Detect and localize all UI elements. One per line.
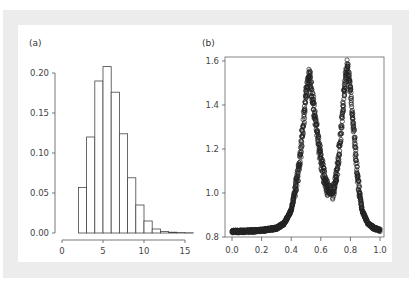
x-tick-label: 10 (139, 246, 150, 256)
x-tick-label: 1.0 (373, 245, 387, 255)
x-tick-label: 5 (100, 246, 105, 256)
panel-label-b: (b) (202, 38, 215, 48)
x-tick-label: 0.6 (314, 245, 328, 255)
y-tick-label: 0.10 (30, 148, 49, 158)
y-tick-label: 0.05 (30, 188, 49, 198)
y-tick-label: 1.6 (205, 56, 219, 66)
y-tick-label: 0.00 (30, 228, 49, 238)
histogram-bar (103, 67, 111, 233)
y-tick-label: 0.20 (30, 68, 49, 78)
x-tick-label: 15 (180, 246, 191, 256)
x-tick-label: 0.8 (344, 245, 358, 255)
y-tick-label: 1.4 (205, 100, 219, 110)
panel-label-a: (a) (29, 38, 42, 48)
histogram-bar (128, 178, 136, 233)
x-tick-label: 0.0 (225, 245, 239, 255)
x-tick-label: 0 (59, 246, 64, 256)
scatter-panel-b: (b)0.81.01.21.41.60.00.20.40.60.81.0 (202, 38, 387, 255)
histogram-bar (152, 229, 160, 233)
x-tick-label: 0.4 (284, 245, 298, 255)
x-tick-label: 0.2 (255, 245, 269, 255)
histogram-bar (169, 232, 177, 233)
histogram-bar (87, 137, 95, 233)
y-tick-label: 1.0 (205, 188, 219, 198)
histogram-bar (95, 81, 103, 233)
y-tick-label: 1.2 (205, 144, 219, 154)
y-tick-label: 0.8 (205, 232, 219, 242)
histogram-bar (136, 205, 144, 233)
histogram-bar (111, 92, 119, 233)
y-tick-label: 0.15 (30, 108, 49, 118)
histogram-bar (119, 134, 127, 233)
histogram-bar (78, 187, 86, 233)
histogram-panel-a: (a)0.000.050.100.150.20051015 (29, 38, 193, 256)
data-points (230, 58, 382, 235)
figure-canvas: (a)0.000.050.100.150.20051015 (b)0.81.01… (0, 0, 412, 287)
histogram-bar (160, 231, 168, 233)
histogram-bar (144, 221, 152, 233)
